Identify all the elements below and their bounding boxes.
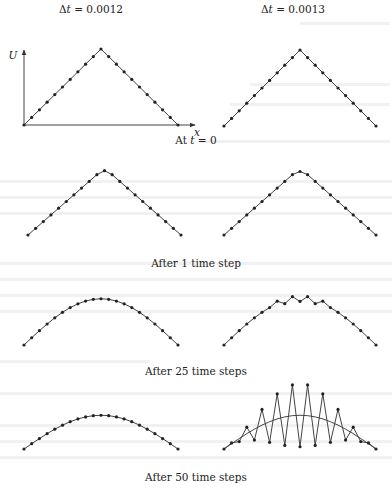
node-point [42, 220, 45, 223]
node-point [84, 63, 87, 66]
node-point [359, 440, 362, 443]
solution-curve [224, 297, 376, 345]
node-point [367, 227, 370, 230]
node-point [107, 414, 110, 417]
node-point [321, 187, 324, 190]
node-point [22, 123, 25, 126]
node-point [153, 101, 156, 104]
node-point [329, 79, 332, 82]
node-point [22, 343, 25, 346]
node-point [153, 432, 156, 435]
node-point [176, 123, 179, 126]
node-point [61, 85, 64, 88]
node-point [367, 441, 370, 444]
node-point [260, 86, 263, 89]
node-point [153, 322, 156, 325]
node-point [230, 441, 233, 444]
node-point [53, 316, 56, 319]
node-point [245, 322, 248, 325]
node-point [99, 47, 102, 50]
node-point [359, 109, 362, 112]
node-point [146, 428, 149, 431]
node-point [329, 441, 332, 444]
node-point [283, 302, 286, 305]
node-point [57, 207, 60, 210]
node-point [314, 180, 317, 183]
node-point [69, 78, 72, 81]
node-point [146, 93, 149, 96]
node-point [336, 311, 339, 314]
node-point [169, 116, 172, 119]
node-point [146, 316, 149, 319]
node-point [99, 414, 102, 417]
node-point [268, 193, 271, 196]
node-point [344, 438, 347, 441]
node-point [222, 447, 225, 450]
node-point [138, 85, 141, 88]
node-point [298, 300, 301, 303]
node-point [245, 102, 248, 105]
node-point [30, 442, 33, 445]
node-point [298, 170, 301, 173]
y-axis-label: U [9, 49, 18, 61]
node-point [336, 408, 339, 411]
node-point [161, 108, 164, 111]
node-point [107, 298, 110, 301]
node-point [161, 329, 164, 332]
node-point [172, 227, 175, 230]
node-point [130, 420, 133, 423]
node-point [115, 299, 118, 302]
node-point [253, 207, 256, 210]
node-point [30, 116, 33, 119]
node-point [359, 329, 362, 332]
node-point [95, 173, 98, 176]
node-point [291, 295, 294, 298]
node-point [69, 306, 72, 309]
node-point [352, 213, 355, 216]
node-point [34, 227, 37, 230]
node-point [298, 48, 301, 51]
node-point [161, 437, 164, 440]
solution-curve [224, 171, 376, 235]
node-point [176, 447, 179, 450]
solution-curve [28, 171, 181, 235]
solution-curve [24, 49, 178, 125]
node-point [276, 71, 279, 74]
node-point [238, 329, 241, 332]
node-point [283, 180, 286, 183]
node-point [141, 200, 144, 203]
node-point [329, 306, 332, 309]
node-point [115, 415, 118, 418]
column-header-left: Δt = 0.0012 [59, 3, 123, 15]
node-point [344, 316, 347, 319]
node-point [222, 124, 225, 127]
node-point [238, 220, 241, 223]
node-point [276, 300, 279, 303]
caption-t0: At t = 0 [175, 134, 216, 146]
node-point [123, 417, 126, 420]
node-point [84, 415, 87, 418]
node-point [138, 424, 141, 427]
node-point [26, 233, 29, 236]
node-point [276, 392, 279, 395]
node-point [352, 102, 355, 105]
node-point [329, 193, 332, 196]
node-point [38, 329, 41, 332]
node-point [359, 220, 362, 223]
node-point [291, 383, 294, 386]
node-point [99, 297, 102, 300]
caption-step25: After 25 time steps [145, 365, 247, 377]
node-point [344, 94, 347, 97]
node-point [291, 56, 294, 59]
node-point [169, 442, 172, 445]
node-point [53, 428, 56, 431]
node-point [76, 70, 79, 73]
node-point [46, 322, 49, 325]
node-point [260, 200, 263, 203]
node-point [314, 302, 317, 305]
node-point [38, 437, 41, 440]
node-point [76, 417, 79, 420]
node-point [238, 109, 241, 112]
solution-curve [24, 299, 178, 345]
node-point [138, 311, 141, 314]
